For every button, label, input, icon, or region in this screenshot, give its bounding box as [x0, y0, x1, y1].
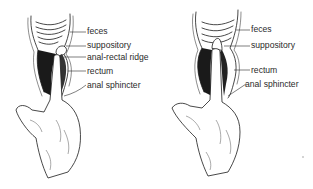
- label-anal-rectal-ridge: anal-rectal ridge: [87, 53, 149, 62]
- label-anal-sphincter: anal sphincter: [87, 81, 141, 90]
- label-suppository: suppository: [251, 41, 295, 50]
- label-anal-sphincter: anal sphincter: [245, 80, 299, 89]
- label-rectum: rectum: [87, 67, 113, 76]
- label-feces: feces: [251, 25, 272, 34]
- panel-right: feces suppository rectum anal sphincter: [160, 0, 313, 189]
- label-suppository: suppository: [87, 41, 131, 50]
- speck: [302, 156, 303, 157]
- panel-left: feces suppository anal-rectal ridge rect…: [0, 0, 160, 189]
- label-feces: feces: [87, 27, 108, 36]
- rectum-finger-illustration-right: [160, 0, 313, 189]
- label-rectum: rectum: [251, 66, 277, 75]
- rectum-finger-illustration-left: [0, 0, 160, 189]
